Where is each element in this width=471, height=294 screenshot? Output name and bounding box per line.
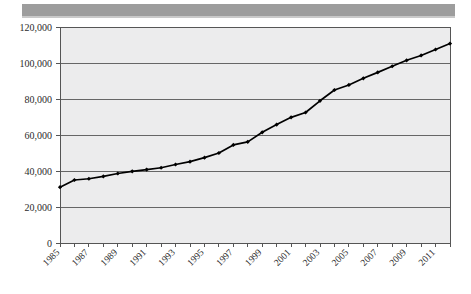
x-tick-label: 1985 <box>41 247 62 268</box>
x-axis-tick-labels: 1985198719891991199319951997199920012003… <box>41 247 437 268</box>
x-tick-label: 1989 <box>99 247 120 268</box>
x-tick-label: 1997 <box>214 247 235 268</box>
x-tick-label: 2009 <box>388 247 409 268</box>
x-tick-label: 2001 <box>272 247 293 268</box>
x-tick-label: 2007 <box>359 247 380 268</box>
x-tick-label: 1999 <box>243 247 264 268</box>
x-tick-label: 2005 <box>330 247 351 268</box>
y-tick-label: 120,000 <box>20 22 53 33</box>
y-axis-tick-labels: 120,000100,00080,00060,00040,00020,0000 <box>20 22 53 249</box>
y-tick-label: 60,000 <box>25 130 53 141</box>
y-tick-label: 40,000 <box>25 166 53 177</box>
x-tick-label: 1987 <box>70 247 91 268</box>
y-axis-ticks <box>56 27 60 243</box>
chart-figure: 120,000100,00080,00060,00040,00020,0000 … <box>0 0 471 294</box>
y-tick-label: 100,000 <box>20 58 53 69</box>
x-tick-label: 2011 <box>417 247 437 267</box>
x-tick-label: 1993 <box>156 247 177 268</box>
y-tick-label: 20,000 <box>25 202 53 213</box>
x-tick-label: 1991 <box>128 247 149 268</box>
line-chart: 120,000100,00080,00060,00040,00020,0000 … <box>0 0 471 294</box>
x-tick-label: 2003 <box>301 247 322 268</box>
y-tick-label: 0 <box>47 238 52 249</box>
y-tick-label: 80,000 <box>25 94 53 105</box>
x-axis-ticks <box>60 243 450 247</box>
x-tick-label: 1995 <box>185 247 206 268</box>
